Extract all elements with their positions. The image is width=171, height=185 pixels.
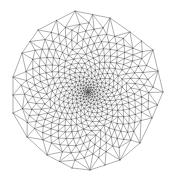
mesh-node bbox=[53, 78, 54, 79]
mesh-node bbox=[90, 66, 91, 67]
mesh-node bbox=[99, 98, 100, 99]
mesh-node bbox=[107, 108, 108, 109]
mesh-node bbox=[58, 34, 59, 35]
mesh-node bbox=[53, 57, 54, 58]
mesh-node bbox=[117, 116, 118, 117]
mesh-node bbox=[25, 71, 26, 72]
mesh-node bbox=[132, 60, 133, 61]
mesh-node bbox=[135, 114, 136, 115]
mesh-node bbox=[69, 69, 70, 70]
mesh-node bbox=[72, 113, 73, 114]
mesh-node bbox=[64, 77, 65, 78]
mesh-node bbox=[77, 85, 78, 86]
mesh-node bbox=[99, 90, 100, 91]
mesh-node bbox=[141, 104, 142, 105]
mesh-node bbox=[134, 122, 135, 123]
mesh-node bbox=[54, 83, 55, 84]
mesh-node bbox=[90, 95, 91, 96]
mesh-node bbox=[43, 88, 44, 89]
mesh-node bbox=[83, 81, 84, 82]
mesh-node bbox=[112, 146, 113, 147]
mesh-node bbox=[88, 91, 89, 92]
mesh-node bbox=[147, 79, 148, 80]
mesh-node bbox=[121, 69, 122, 70]
mesh-node bbox=[157, 70, 158, 71]
mesh-edges bbox=[13, 11, 163, 170]
mesh-node bbox=[45, 119, 46, 120]
mesh-node bbox=[91, 78, 92, 79]
mesh-node bbox=[111, 136, 112, 137]
mesh-node bbox=[97, 103, 98, 104]
mesh-node bbox=[105, 133, 106, 134]
mesh-node bbox=[94, 29, 95, 30]
mesh-node bbox=[130, 78, 131, 79]
mesh-node bbox=[121, 98, 122, 99]
mesh-node bbox=[53, 116, 54, 117]
mesh-node bbox=[90, 84, 91, 85]
mesh-node bbox=[87, 95, 88, 96]
mesh-node bbox=[123, 124, 124, 125]
mesh-node bbox=[66, 138, 67, 139]
mesh-node bbox=[108, 96, 109, 97]
mesh-node bbox=[45, 65, 46, 66]
mesh-node bbox=[36, 121, 37, 122]
mesh-node bbox=[94, 43, 95, 44]
mesh-node bbox=[97, 108, 98, 109]
mesh-node bbox=[78, 63, 79, 64]
mesh-node bbox=[62, 52, 63, 53]
mesh-node bbox=[91, 92, 92, 93]
mesh-node bbox=[152, 87, 153, 88]
mesh-node bbox=[113, 80, 114, 81]
mesh-node bbox=[87, 149, 88, 150]
mesh-node bbox=[115, 68, 116, 69]
mesh-node bbox=[111, 121, 112, 122]
mesh-node bbox=[71, 125, 72, 126]
mesh-node bbox=[80, 137, 81, 138]
mesh-node bbox=[59, 118, 60, 119]
mesh-node bbox=[84, 94, 85, 95]
mesh-node bbox=[38, 114, 39, 115]
mesh-node bbox=[106, 119, 107, 120]
mesh-node bbox=[72, 83, 73, 84]
mesh-node bbox=[117, 50, 118, 51]
mesh-node bbox=[29, 115, 30, 116]
mesh-node bbox=[38, 92, 39, 93]
mesh-node bbox=[71, 152, 72, 153]
mesh-node bbox=[141, 40, 142, 41]
mesh-node bbox=[67, 97, 68, 98]
mesh-node bbox=[134, 93, 135, 94]
mesh-node bbox=[100, 138, 101, 139]
mesh-node bbox=[39, 66, 40, 67]
mesh-node bbox=[88, 22, 89, 23]
mesh-node bbox=[112, 92, 113, 93]
mesh-node bbox=[94, 63, 95, 64]
mesh-node bbox=[56, 20, 57, 21]
mesh-node bbox=[106, 93, 107, 94]
mesh-node bbox=[40, 58, 41, 59]
mesh-node bbox=[88, 87, 89, 88]
mesh-canvas bbox=[0, 0, 171, 185]
mesh-node bbox=[33, 76, 34, 77]
mesh-node bbox=[83, 39, 84, 40]
mesh-node bbox=[104, 55, 105, 56]
mesh-node bbox=[36, 103, 37, 104]
mesh-node bbox=[114, 36, 115, 37]
mesh-node bbox=[90, 103, 91, 104]
mesh-node bbox=[90, 99, 91, 100]
mesh-node bbox=[58, 71, 59, 72]
mesh-node bbox=[138, 66, 139, 67]
mesh-node bbox=[70, 79, 71, 80]
mesh-node bbox=[88, 126, 89, 127]
mesh-node bbox=[102, 96, 103, 97]
mesh-node bbox=[103, 91, 104, 92]
mesh-node bbox=[88, 60, 89, 61]
mesh-node bbox=[87, 90, 88, 91]
mesh-node bbox=[52, 71, 53, 72]
mesh-node bbox=[97, 86, 98, 87]
mesh-node bbox=[77, 43, 78, 44]
mesh-node bbox=[44, 39, 45, 40]
mesh-node bbox=[62, 151, 63, 152]
mesh-node bbox=[83, 143, 84, 144]
mesh-node bbox=[77, 53, 78, 54]
mesh-node bbox=[56, 110, 57, 111]
